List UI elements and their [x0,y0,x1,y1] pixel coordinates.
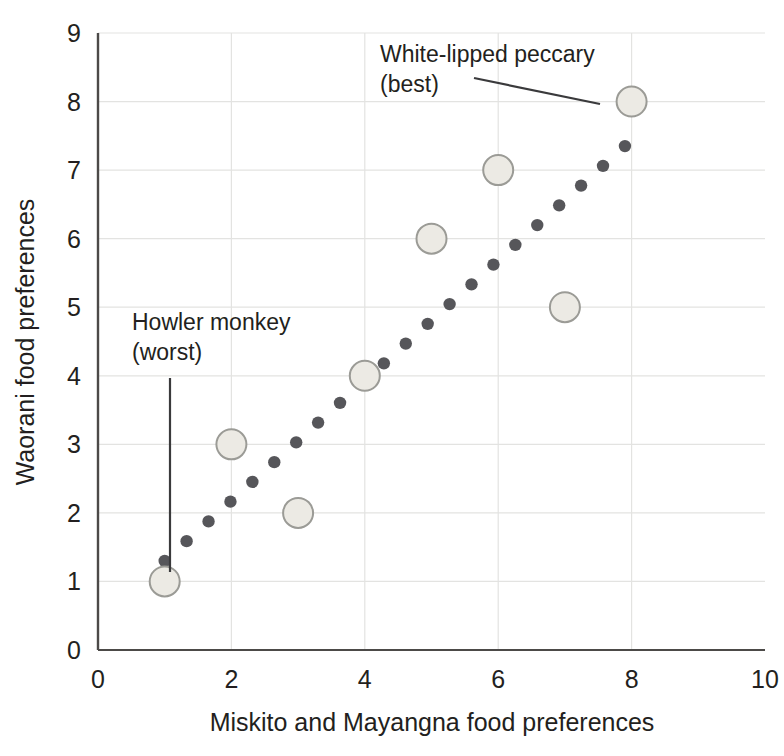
trend-line-dot [443,298,455,310]
annotation-line-2: (best) [380,71,439,97]
chart-canvas: 0246810 0123456789 White-lipped peccary(… [0,0,784,756]
y-tick-label: 2 [67,499,81,527]
trend-line-dot [575,179,587,191]
y-tick-label: 6 [67,225,81,253]
data-point-circle [150,566,180,596]
trend-line-dot [553,199,565,211]
data-point-circle [283,498,313,528]
data-point-marker[interactable] [550,292,580,322]
trend-line-dot [509,239,521,251]
data-point-circle [350,361,380,391]
annotation-line-1: White-lipped peccary [380,41,595,67]
trend-line-dot [268,456,280,468]
x-tick-label: 2 [224,665,238,693]
trend-line-dot [246,476,258,488]
data-point-circle [550,292,580,322]
x-tick-label: 6 [491,665,505,693]
data-point-circle [417,224,447,254]
x-tick-label: 4 [358,665,372,693]
y-tick-label: 7 [67,156,81,184]
x-axis-title: Miskito and Mayangna food preferences [210,708,655,736]
y-tick-label: 5 [67,293,81,321]
trend-line-dot [202,515,214,527]
data-point-marker[interactable] [150,566,180,596]
annotation-line-2: (worst) [132,339,202,365]
trend-line-dot [224,495,236,507]
trend-line-dot [619,140,631,152]
chart-background [0,0,784,756]
data-point-marker[interactable] [617,87,647,117]
data-point-circle [483,155,513,185]
trend-line-dot [421,318,433,330]
trend-line-dot [487,258,499,270]
y-tick-label: 4 [67,362,81,390]
y-tick-label: 9 [67,19,81,47]
x-tick-label: 8 [625,665,639,693]
trend-line-dot [290,436,302,448]
data-point-marker[interactable] [216,429,246,459]
trend-line-dot [312,416,324,428]
trend-line-dot [334,397,346,409]
trend-line-dot [465,278,477,290]
data-point-marker[interactable] [283,498,313,528]
trend-line-dot [378,357,390,369]
trend-line-dot [180,535,192,547]
y-tick-label: 0 [67,636,81,664]
trend-line-dot [400,337,412,349]
x-tick-label: 0 [91,665,105,693]
data-point-circle [216,429,246,459]
annotation-line-1: Howler monkey [132,309,291,335]
data-point-marker[interactable] [350,361,380,391]
scatter-chart: 0246810 0123456789 White-lipped peccary(… [0,0,784,756]
data-point-circle [617,87,647,117]
x-tick-label: 10 [751,665,779,693]
y-axis-title: Waorani food preferences [11,199,39,486]
data-point-marker[interactable] [417,224,447,254]
trend-line-dot [531,219,543,231]
y-tick-label: 8 [67,88,81,116]
y-tick-label: 3 [67,430,81,458]
y-tick-label: 1 [67,567,81,595]
trend-line-dot [597,160,609,172]
data-point-marker[interactable] [483,155,513,185]
